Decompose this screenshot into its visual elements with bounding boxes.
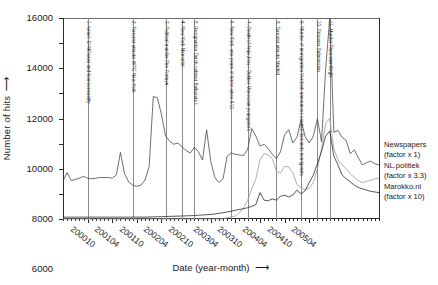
- series-line-marokko-nl: [63, 131, 379, 217]
- y-tick-label: 6000: [32, 263, 53, 274]
- legend-series-factor: (factor x 1): [384, 150, 438, 160]
- legend-series-factor: (factor x 10): [384, 192, 438, 202]
- y-tick-label: 12000: [27, 113, 53, 124]
- x-tick-label: 200204: [142, 224, 171, 249]
- y-tick-label: 14000: [27, 62, 53, 73]
- x-tick-label: 200310: [216, 224, 245, 249]
- series-line-nl-politiek: [63, 119, 379, 220]
- series-lines: [63, 18, 379, 219]
- x-axis-arrow-icon: ⟶: [255, 262, 268, 273]
- chart-figure: Number of hits⟶ 020004000600080001000012…: [0, 0, 438, 285]
- y-axis-arrow-icon: ⟶: [1, 78, 12, 91]
- y-tick-label: 8000: [32, 213, 53, 224]
- y-axis-title-text: Number of hits: [1, 96, 12, 161]
- y-tick-label: 10000: [27, 163, 53, 174]
- x-axis-title-text: Date (year-month): [172, 262, 249, 273]
- x-tick-label: 200304: [192, 224, 221, 249]
- x-tick-label: 200010: [68, 224, 97, 249]
- series-line-newspapers: [63, 18, 379, 186]
- x-tick-label: 200504: [290, 224, 319, 249]
- x-tick-label: 200104: [93, 224, 122, 249]
- y-axis-title: Number of hits⟶: [0, 46, 22, 186]
- legend-divider: [379, 18, 380, 219]
- y-tick-label: 16000: [27, 12, 53, 23]
- legend-series-name: Marokko.nl: [384, 182, 438, 192]
- x-axis-title: Date (year-month)⟶: [120, 262, 320, 273]
- x-tick-label: 200404: [241, 224, 270, 249]
- x-tick-label: 200410: [265, 224, 294, 249]
- x-tick-label: 200210: [167, 224, 196, 249]
- chart-legend: Newspapers(factor x 1)NL.politiek(factor…: [384, 140, 438, 202]
- legend-series-name: Newspapers: [384, 140, 438, 150]
- x-tick-label: 200110: [118, 224, 146, 249]
- legend-series-name: NL.politiek: [384, 161, 438, 171]
- legend-series-factor: (factor x 3.3): [384, 171, 438, 181]
- plot-area: 0200040006000800010000120001400016000 20…: [63, 18, 379, 219]
